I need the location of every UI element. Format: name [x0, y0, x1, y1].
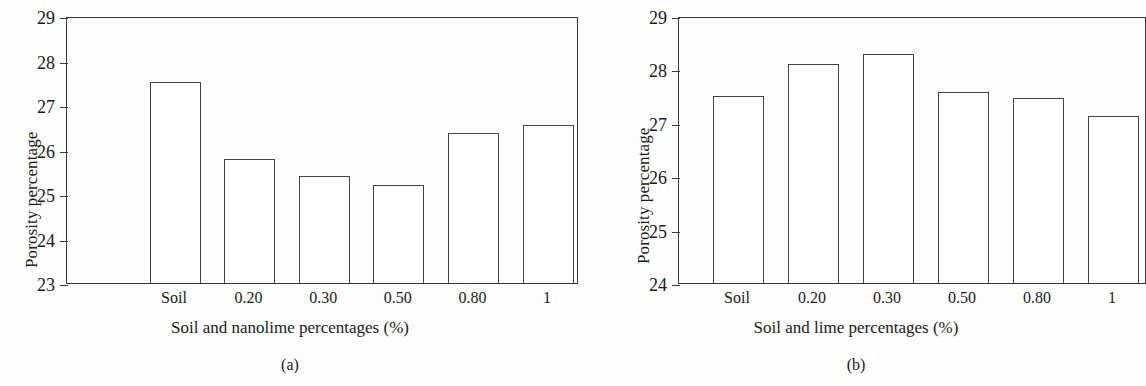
- y-tick-29: 29: [60, 18, 68, 19]
- y-tick-25: 25: [672, 232, 680, 233]
- y-tick-24: 24: [60, 241, 68, 242]
- y-tick-label-26: 26: [37, 142, 55, 162]
- chart-panel-a: Porosity percentage 23242526272829 Soil0…: [0, 0, 580, 386]
- y-tick-26: 26: [672, 178, 680, 179]
- y-tick-29: 29: [672, 18, 680, 19]
- x-axis-title-a: Soil and nanolime percentages (%): [0, 318, 580, 338]
- y-tick-label-24: 24: [649, 275, 667, 295]
- y-tick-label-27: 27: [37, 97, 55, 117]
- y-tick-label-29: 29: [37, 8, 55, 28]
- y-tick-label-28: 28: [649, 61, 667, 81]
- y-tick-label-27: 27: [649, 115, 667, 135]
- y-tick-23: 23: [60, 285, 68, 286]
- y-tick-label-25: 25: [37, 186, 55, 206]
- chart-panel-b: Porosity percentage 242526272829 Soil0.2…: [566, 0, 1146, 386]
- panel-caption-b: (b): [606, 356, 1106, 374]
- bar-0-20: [224, 159, 275, 283]
- bar-0-30: [299, 176, 350, 283]
- x-tick-label-0-30: 0.30: [873, 289, 901, 307]
- bar-1: [1088, 116, 1139, 283]
- bar-0-20: [788, 64, 839, 283]
- y-tick-27: 27: [60, 107, 68, 108]
- figure-root: Porosity percentage 23242526272829 Soil0…: [0, 0, 1146, 386]
- bar-0-50: [373, 185, 424, 283]
- y-tick-28: 28: [60, 63, 68, 64]
- bar-group-b: [679, 18, 1145, 283]
- x-tick-label-0-80: 0.80: [1023, 289, 1051, 307]
- x-tick-label-1: 1: [543, 289, 551, 307]
- panel-caption-a: (a): [0, 356, 580, 374]
- y-tick-24: 24: [672, 285, 680, 286]
- x-tick-label-1: 1: [1108, 289, 1116, 307]
- bar-group-a: [67, 18, 577, 283]
- plot-area-a: 23242526272829: [66, 17, 578, 284]
- x-tick-label-0-80: 0.80: [458, 289, 486, 307]
- y-tick-26: 26: [60, 152, 68, 153]
- y-tick-27: 27: [672, 125, 680, 126]
- bar-Soil: [713, 96, 764, 283]
- y-axis-title-b: Porosity percentage: [634, 128, 654, 264]
- y-tick-label-28: 28: [37, 53, 55, 73]
- y-tick-label-25: 25: [649, 222, 667, 242]
- x-tick-label-0-30: 0.30: [309, 289, 337, 307]
- bar-Soil: [150, 82, 201, 283]
- bar-0-80: [1013, 98, 1064, 283]
- y-tick-25: 25: [60, 196, 68, 197]
- y-tick-label-24: 24: [37, 231, 55, 251]
- x-tick-label-0-50: 0.50: [948, 289, 976, 307]
- y-tick-28: 28: [672, 71, 680, 72]
- y-tick-label-23: 23: [37, 275, 55, 295]
- plot-area-b: 242526272829: [678, 17, 1146, 284]
- bar-0-80: [448, 133, 499, 283]
- x-tick-label-Soil: Soil: [724, 289, 750, 307]
- x-tick-label-0-20: 0.20: [235, 289, 263, 307]
- x-tick-label-0-20: 0.20: [798, 289, 826, 307]
- bar-0-30: [863, 54, 914, 283]
- x-tick-label-0-50: 0.50: [384, 289, 412, 307]
- x-tick-label-Soil: Soil: [161, 289, 187, 307]
- x-axis-title-b: Soil and lime percentages (%): [606, 318, 1106, 338]
- y-tick-label-26: 26: [649, 168, 667, 188]
- bar-0-50: [938, 92, 989, 283]
- y-tick-label-29: 29: [649, 8, 667, 28]
